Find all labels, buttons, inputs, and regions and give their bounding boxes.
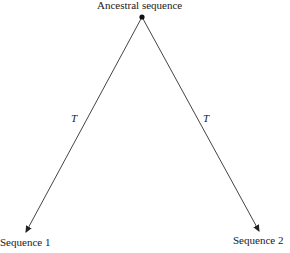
- root-label: Ancestral sequence: [97, 0, 182, 11]
- branch-left-label: T: [71, 112, 77, 124]
- leaf-label-sequence-1: Sequence 1: [0, 236, 50, 248]
- branch-left-line: [26, 17, 142, 232]
- branch-right-label: T: [203, 112, 209, 124]
- root-node: [139, 14, 144, 19]
- leaf-label-sequence-2: Sequence 2: [233, 234, 283, 246]
- branch-right-line: [142, 17, 259, 231]
- tree-diagram: [0, 0, 290, 253]
